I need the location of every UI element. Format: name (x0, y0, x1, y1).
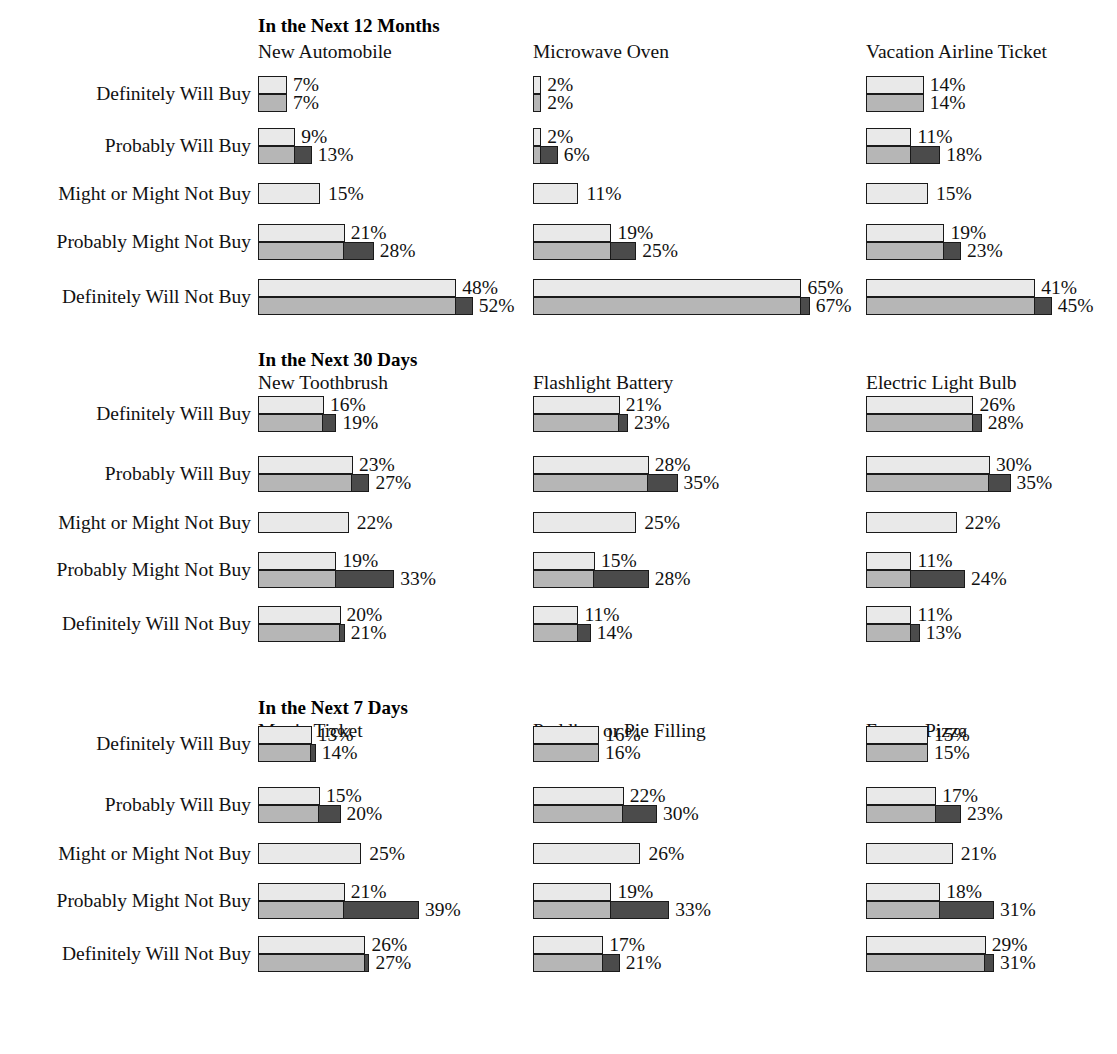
row-label-1: Probably Will Buy (8, 795, 251, 815)
bar-bottom (866, 94, 924, 112)
bar-top (866, 456, 990, 474)
bar-bottom (533, 624, 578, 642)
bar-bottom-dark-segment (984, 954, 994, 972)
bar-single (866, 183, 928, 204)
value-label: 16% (605, 743, 641, 763)
bar-bottom-dark-segment (988, 474, 1010, 492)
value-label: 21% (626, 953, 662, 973)
value-label: 25% (644, 513, 680, 533)
bar-bottom (866, 414, 973, 432)
product-title: Electric Light Bulb (866, 372, 1017, 393)
bar-bottom-dark-segment (318, 805, 340, 823)
bar-bottom-dark-segment (294, 146, 312, 164)
bar-bottom (258, 94, 287, 112)
bar-top (258, 606, 341, 624)
value-label: 31% (1000, 953, 1036, 973)
value-label: 15% (934, 743, 970, 763)
value-label: 20% (347, 804, 383, 824)
bar-bottom-dark-segment (939, 901, 994, 919)
bar-bottom-dark-segment (339, 624, 345, 642)
bar-bottom-dark-segment (910, 146, 941, 164)
bar-top (866, 883, 940, 901)
bar-top (866, 552, 911, 570)
bar-single (533, 183, 578, 204)
row-label-2: Might or Might Not Buy (8, 513, 251, 533)
value-label: 27% (376, 473, 412, 493)
bar-top (533, 224, 611, 242)
bar-top (866, 936, 986, 954)
bar-top (533, 787, 624, 805)
bar-single (866, 843, 953, 864)
bar-bottom (866, 744, 928, 762)
value-label: 13% (926, 623, 962, 643)
value-label: 25% (369, 844, 405, 864)
bar-bottom (258, 146, 295, 164)
value-label: 14% (930, 93, 966, 113)
bar-bottom (258, 414, 324, 432)
value-label: 27% (376, 953, 412, 973)
row-label-4: Definitely Will Not Buy (8, 287, 251, 307)
row-label-3: Probably Might Not Buy (8, 891, 251, 911)
bar-bottom (533, 242, 611, 260)
bar-bottom (866, 805, 936, 823)
bar-top (258, 456, 353, 474)
bar-bottom (866, 624, 911, 642)
bar-top (258, 552, 336, 570)
bar-top (866, 128, 911, 146)
section-title: In the Next 30 Days (258, 350, 417, 370)
row-label-2: Might or Might Not Buy (8, 184, 251, 204)
value-label: 31% (1000, 900, 1036, 920)
bar-bottom-dark-segment (602, 954, 620, 972)
bar-top (258, 787, 320, 805)
value-label: 21% (351, 882, 387, 902)
value-label: 14% (597, 623, 633, 643)
bar-bottom (866, 954, 986, 972)
product-title: New Toothbrush (258, 372, 388, 393)
bar-top (533, 552, 595, 570)
bar-single (258, 512, 349, 533)
bar-top (866, 726, 928, 744)
bar-bottom (533, 954, 603, 972)
row-label-4: Definitely Will Not Buy (8, 944, 251, 964)
bar-bottom (866, 570, 911, 588)
row-label-0: Definitely Will Buy (8, 404, 251, 424)
value-label: 21% (351, 623, 387, 643)
row-label-3: Probably Might Not Buy (8, 232, 251, 252)
bar-top (533, 606, 578, 624)
value-label: 23% (634, 413, 670, 433)
bar-top (258, 883, 345, 901)
bar-bottom (258, 297, 456, 315)
bar-top (533, 456, 649, 474)
value-label: 13% (318, 145, 354, 165)
bar-top (533, 76, 541, 94)
bar-top (866, 787, 936, 805)
bar-bottom (258, 570, 336, 588)
product-title: Flashlight Battery (533, 372, 673, 393)
bar-bottom-dark-segment (610, 901, 669, 919)
bar-top (258, 936, 365, 954)
value-label: 6% (564, 145, 590, 165)
bar-bottom-dark-segment (364, 954, 370, 972)
value-label: 35% (1017, 473, 1053, 493)
bar-top (533, 936, 603, 954)
value-label: 33% (675, 900, 711, 920)
value-label: 30% (663, 804, 699, 824)
bar-bottom-dark-segment (935, 805, 961, 823)
bar-bottom (866, 297, 1035, 315)
bar-top (258, 76, 287, 94)
bar-bottom (533, 805, 624, 823)
bar-top (533, 726, 599, 744)
bar-top (258, 224, 345, 242)
bar-single (258, 843, 361, 864)
bar-top (533, 128, 541, 146)
bar-single (533, 512, 636, 533)
row-label-3: Probably Might Not Buy (8, 560, 251, 580)
value-label: 22% (965, 513, 1001, 533)
value-label: 19% (617, 882, 653, 902)
product-title: Vacation Airline Ticket (866, 41, 1047, 62)
value-label: 26% (648, 844, 684, 864)
row-label-1: Probably Will Buy (8, 136, 251, 156)
bar-single (866, 512, 957, 533)
value-label: 22% (357, 513, 393, 533)
bar-bottom (258, 805, 320, 823)
